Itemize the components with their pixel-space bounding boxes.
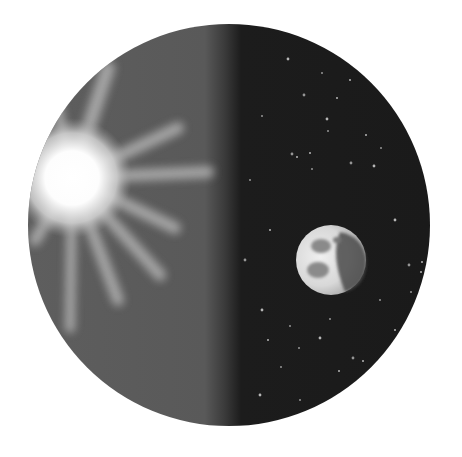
star-icon [267, 339, 269, 341]
star-icon [380, 147, 382, 149]
star-icon [291, 153, 294, 156]
sun-icon [12, 118, 132, 238]
star-icon [338, 370, 340, 372]
star-icon [365, 134, 367, 136]
star-icon [269, 229, 271, 231]
star-icon [344, 394, 346, 396]
star-icon [394, 329, 396, 331]
star-icon [350, 162, 353, 165]
star-icon [280, 366, 282, 368]
star-icon [296, 156, 298, 158]
star-icon [249, 179, 251, 181]
star-icon [421, 261, 423, 263]
star-icon [410, 291, 412, 293]
star-icon [261, 115, 263, 117]
sun-moon-illustration [0, 0, 462, 457]
star-icon [261, 309, 264, 312]
star-icon [327, 130, 329, 132]
star-icon [287, 58, 290, 61]
star-icon [352, 357, 355, 360]
star-icon [336, 97, 338, 99]
star-icon [373, 165, 376, 168]
star-icon [349, 79, 351, 81]
star-icon [319, 337, 322, 340]
circular-frame [12, 24, 430, 426]
star-icon [420, 271, 422, 273]
star-icon [362, 360, 364, 362]
star-icon [326, 118, 329, 121]
star-icon [394, 219, 397, 222]
star-icon [259, 394, 262, 397]
star-icon [299, 399, 301, 401]
star-icon [309, 152, 311, 154]
star-icon [321, 72, 323, 74]
star-icon [408, 264, 411, 267]
star-icon [298, 347, 300, 349]
star-icon [289, 325, 291, 327]
star-icon [303, 94, 306, 97]
star-icon [329, 318, 331, 320]
star-icon [311, 168, 313, 170]
moon-icon [296, 225, 366, 295]
star-icon [379, 299, 381, 301]
star-icon [244, 259, 247, 262]
